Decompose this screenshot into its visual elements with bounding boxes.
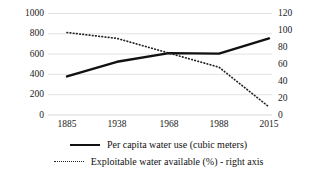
y-left-tick-400: 400: [6, 69, 44, 79]
y-left-tick-600: 600: [6, 49, 44, 59]
y-left-tick-1000: 1000: [6, 8, 44, 18]
dotted-line-swatch-icon: [54, 157, 84, 167]
y-right-tick-40: 40: [278, 76, 312, 86]
y-left-tick-200: 200: [6, 89, 44, 99]
chart-legend: Per capita water use (cubic meters) Expl…: [0, 136, 317, 170]
y-left-tick-800: 800: [6, 28, 44, 38]
y-right-tick-0: 0: [278, 110, 312, 120]
legend-label-per-capita-water-use: Per capita water use (cubic meters): [107, 139, 247, 150]
x-tick-1988: 1988: [197, 119, 241, 129]
legend-item-per-capita-water-use: Per capita water use (cubic meters): [0, 136, 317, 153]
y-right-tick-80: 80: [278, 42, 312, 52]
y-right-tick-100: 100: [278, 25, 312, 35]
series-exploitable-water-available: [67, 33, 269, 107]
series-per-capita-water-use: [67, 38, 269, 76]
y-right-tick-120: 120: [278, 8, 312, 18]
x-tick-1885: 1885: [45, 119, 89, 129]
x-tick-1938: 1938: [95, 119, 139, 129]
chart-container: 1000 800 600 400 200 0 120 100 80 60 40 …: [0, 0, 317, 174]
y-right-tick-20: 20: [278, 93, 312, 103]
solid-line-swatch-icon: [70, 140, 100, 150]
x-tick-1968: 1968: [147, 119, 191, 129]
x-tick-2015: 2015: [247, 119, 291, 129]
y-right-tick-60: 60: [278, 59, 312, 69]
y-left-tick-0: 0: [6, 110, 44, 120]
legend-label-exploitable-water-available: Exploitable water available (%) - right …: [91, 156, 264, 167]
gridlines: [48, 14, 272, 116]
legend-item-exploitable-water-available: Exploitable water available (%) - right …: [0, 153, 317, 170]
